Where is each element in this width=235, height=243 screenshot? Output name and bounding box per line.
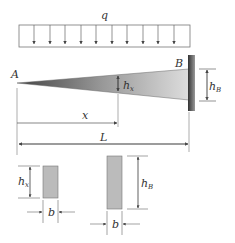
load-label: q <box>101 9 108 22</box>
svg-text:hB: hB <box>141 177 153 191</box>
section-b-h-label: h <box>141 177 148 190</box>
section-x-h-label: h <box>18 175 25 188</box>
load-box <box>19 25 190 47</box>
hb-label: h <box>209 80 216 93</box>
section-b-b-label: b <box>112 218 119 231</box>
distributed-load: q <box>19 9 190 47</box>
x-dimension: x <box>17 109 117 123</box>
hx-label: h <box>123 79 130 92</box>
extension-lines <box>17 88 189 155</box>
section-x-h-sub: x <box>25 181 29 189</box>
svg-text:hB: hB <box>209 80 221 94</box>
end-b-label: B <box>174 57 183 70</box>
section-b-h-sub: B <box>147 183 153 191</box>
section-x-rect <box>43 166 58 198</box>
hb-sub: B <box>215 86 221 94</box>
tapered-beam-diagram: q A B hx hB <box>0 0 235 243</box>
svg-text:hx: hx <box>18 175 29 189</box>
l-dimension: L <box>19 131 188 144</box>
cross-section-x: hx b <box>18 166 75 223</box>
beam-body <box>17 69 189 100</box>
load-arrows <box>34 25 174 44</box>
fixed-wall <box>188 55 195 111</box>
end-a-label: A <box>10 68 19 81</box>
tapered-beam: A B <box>10 57 189 100</box>
section-x-b-label: b <box>48 206 55 219</box>
cross-section-b: hB b <box>90 156 153 235</box>
hx-sub: x <box>130 85 134 93</box>
l-label: L <box>99 131 107 144</box>
x-label: x <box>82 109 89 122</box>
section-b-rect <box>107 156 122 209</box>
